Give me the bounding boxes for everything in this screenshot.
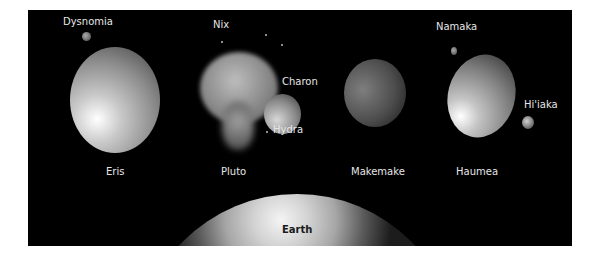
eris-label: Eris [106,166,124,177]
charon-label: Charon [282,76,318,87]
earth-label: Earth [282,224,312,235]
nix-label: Nix [213,19,229,30]
makemake-planet [344,59,406,127]
hiiaka-label: Hi'iaka [524,99,558,110]
nix-moon [221,41,223,43]
moon-dot [265,34,267,36]
dysnomia-label: Dysnomia [63,16,113,27]
hydra-moon [266,131,268,133]
makemake-label: Makemake [351,166,405,177]
haumea-label: Haumea [456,166,498,177]
hydra-label: Hydra [273,124,303,135]
namaka-moon [451,47,457,55]
pluto-planet-lobe [222,102,254,150]
pluto-label: Pluto [221,166,246,177]
eris-planet [70,47,160,153]
haumea-planet [438,47,524,145]
earth-planet [136,194,458,246]
moon-dot [281,44,283,46]
space-panel: Dysnomia Eris Nix Charon Hydra Pluto Mak… [28,10,572,246]
hiiaka-moon [522,116,534,129]
dysnomia-moon [82,32,91,41]
namaka-label: Namaka [436,21,477,32]
